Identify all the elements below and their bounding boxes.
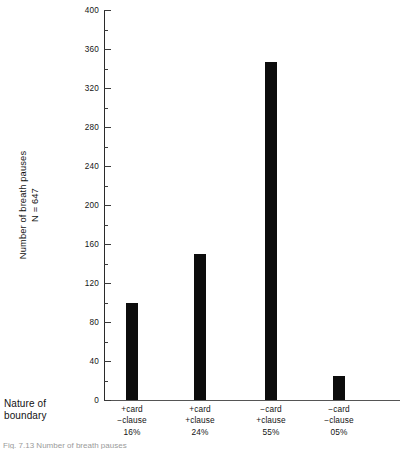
bar-3 (265, 62, 277, 400)
x-category-label-4: −card−clause05% (301, 404, 377, 438)
y-tick-mark (104, 88, 111, 89)
y-tick-mark (104, 127, 111, 128)
x-category-line2: +clause (233, 415, 309, 426)
plot-area: 40036032028024020016012080400 (104, 10, 400, 400)
y-tick-mark (104, 322, 111, 323)
x-axis-category-labels: +card−clause16%+card+clause24%−card+clau… (104, 404, 400, 446)
y-tick-mark-minor (104, 108, 108, 109)
y-tick-mark (104, 166, 111, 167)
x-category-line1: +card (94, 404, 170, 415)
y-tick-mark-minor (104, 264, 108, 265)
x-category-line1: +card (162, 404, 238, 415)
y-axis-title-line2: N = 647 (29, 151, 41, 259)
x-category-label-1: +card−clause16% (94, 404, 170, 438)
y-tick-mark (104, 283, 111, 284)
y-axis-title: Number of breath pauses N = 647 (14, 120, 44, 290)
y-tick-mark-minor (104, 225, 108, 226)
y-tick-mark-minor (104, 186, 108, 187)
y-tick-label: 40 (89, 357, 99, 366)
x-category-percent: 05% (301, 427, 377, 438)
y-tick-label: 120 (85, 279, 99, 288)
figure-caption: Fig. 7.13 Number of breath pauses (3, 441, 243, 449)
y-tick-mark (104, 205, 111, 206)
y-tick-label: 360 (85, 45, 99, 54)
x-category-line2: −clause (301, 415, 377, 426)
y-tick-label: 80 (89, 318, 99, 327)
x-axis-line (104, 400, 400, 401)
y-tick-mark-minor (104, 342, 108, 343)
x-category-line2: −clause (94, 415, 170, 426)
y-tick-mark-minor (104, 147, 108, 148)
x-category-label-2: +card+clause24% (162, 404, 238, 438)
bar-1 (126, 303, 138, 401)
x-category-line1: −card (233, 404, 309, 415)
y-tick-label: 200 (85, 201, 99, 210)
y-tick-mark-minor (104, 381, 108, 382)
y-tick-mark (104, 400, 111, 401)
bar-chart-figure: Number of breath pauses N = 647 40036032… (0, 0, 405, 449)
x-category-line2: +clause (162, 415, 238, 426)
y-tick-label: 400 (85, 6, 99, 15)
x-category-percent: 16% (94, 427, 170, 438)
y-tick-mark-minor (104, 303, 108, 304)
y-tick-label: 320 (85, 84, 99, 93)
y-tick-mark (104, 10, 111, 11)
x-axis-title-line2: boundary (4, 410, 76, 422)
x-category-percent: 55% (233, 427, 309, 438)
x-category-percent: 24% (162, 427, 238, 438)
x-category-line1: −card (301, 404, 377, 415)
bar-4 (333, 376, 345, 400)
x-axis-title: Nature of boundary (4, 398, 76, 423)
x-category-label-3: −card+clause55% (233, 404, 309, 438)
y-axis-title-line1: Number of breath pauses (18, 151, 28, 259)
y-tick-label: 240 (85, 162, 99, 171)
x-axis-title-line1: Nature of (4, 398, 76, 410)
y-tick-mark (104, 244, 111, 245)
y-tick-mark (104, 361, 111, 362)
bar-2 (194, 254, 206, 400)
y-tick-label: 280 (85, 123, 99, 132)
y-tick-mark-minor (104, 69, 108, 70)
y-tick-label: 160 (85, 240, 99, 249)
y-tick-mark-minor (104, 30, 108, 31)
y-tick-mark (104, 49, 111, 50)
